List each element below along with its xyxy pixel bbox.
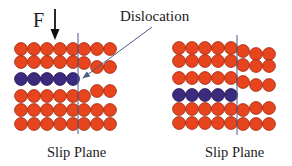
atom: [15, 118, 28, 131]
atom: [54, 43, 67, 56]
atom: [237, 76, 250, 89]
atom: [15, 43, 28, 56]
atom: [186, 55, 199, 68]
atom: [212, 117, 225, 130]
atom: [263, 60, 276, 73]
atom: [237, 118, 250, 131]
atom: [28, 118, 41, 131]
atom: [28, 43, 41, 56]
atom: [91, 85, 104, 98]
extra-half-plane-atom: [28, 73, 41, 86]
atom: [173, 117, 186, 130]
atom: [199, 117, 212, 130]
atom: [263, 79, 276, 92]
atom: [104, 118, 117, 131]
extra-half-plane-atom: [15, 73, 28, 86]
extra-half-plane-atom: [54, 73, 67, 86]
slip-plane-label-right: Slip Plane: [205, 144, 264, 160]
atom: [78, 90, 91, 103]
atom: [225, 55, 238, 68]
atom: [41, 56, 54, 69]
extra-half-plane-atom: [173, 89, 186, 102]
atom: [78, 118, 91, 131]
atom: [237, 45, 250, 58]
atom: [28, 56, 41, 69]
atom: [91, 104, 104, 117]
atom: [263, 48, 276, 61]
atom: [225, 72, 238, 85]
atom: [212, 42, 225, 55]
atom: [173, 72, 186, 85]
atom: [78, 57, 91, 70]
atom: [28, 104, 41, 117]
atom: [104, 85, 117, 98]
atom: [54, 56, 67, 69]
atom: [173, 55, 186, 68]
slip-plane-label-left: Slip Plane: [47, 144, 106, 160]
extra-half-plane-atom: [41, 73, 54, 86]
atom: [250, 102, 263, 115]
atom: [225, 42, 238, 55]
atom: [54, 104, 67, 117]
atom: [212, 55, 225, 68]
extra-half-plane-atom: [212, 89, 225, 102]
atom: [173, 42, 186, 55]
right-crystal-lattice: [173, 42, 276, 131]
atom: [186, 117, 199, 130]
atom: [186, 72, 199, 85]
atom: [15, 56, 28, 69]
atom: [186, 42, 199, 55]
atom: [173, 103, 186, 116]
atom: [41, 104, 54, 117]
dislocation-label: Dislocation: [120, 8, 190, 24]
force-arrow-icon: [51, 9, 60, 40]
atom: [15, 104, 28, 117]
atom: [250, 79, 263, 92]
atom: [91, 118, 104, 131]
force-label: F: [33, 9, 44, 31]
atom: [104, 61, 117, 74]
atom: [263, 118, 276, 131]
atom: [250, 60, 263, 73]
atom: [78, 43, 91, 56]
atom: [91, 43, 104, 56]
atom: [15, 90, 28, 103]
atom: [104, 104, 117, 117]
atom: [237, 104, 250, 117]
atom: [199, 103, 212, 116]
atom: [104, 43, 117, 56]
atom: [212, 103, 225, 116]
atom: [41, 90, 54, 103]
extra-half-plane-atom: [186, 89, 199, 102]
extra-half-plane-atom: [199, 89, 212, 102]
atom: [28, 90, 41, 103]
atom: [225, 103, 238, 116]
atom: [41, 118, 54, 131]
atom: [199, 72, 212, 85]
atom: [41, 43, 54, 56]
atom: [199, 55, 212, 68]
atom: [54, 90, 67, 103]
atom: [225, 117, 238, 130]
left-crystal-lattice: [15, 43, 117, 131]
extra-half-plane-atom: [225, 89, 238, 102]
atom: [199, 42, 212, 55]
atom: [186, 103, 199, 116]
atom: [250, 118, 263, 131]
atom: [54, 118, 67, 131]
atom: [250, 48, 263, 61]
atom: [237, 59, 250, 72]
atom: [78, 104, 91, 117]
atom: [212, 72, 225, 85]
extra-half-plane-atom: [67, 73, 80, 86]
dislocation-diagram: F Dislocation Slip Plane Slip Plane: [0, 0, 292, 166]
atom: [263, 102, 276, 115]
